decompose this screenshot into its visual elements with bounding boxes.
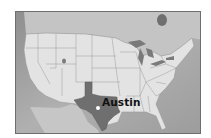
city-label: Austin [102,96,141,108]
map-frame: Austin [15,11,201,134]
us-map [16,12,201,134]
hudson-bay [157,14,167,26]
great-salt-lake [62,59,66,64]
austin-marker-icon [96,106,100,110]
